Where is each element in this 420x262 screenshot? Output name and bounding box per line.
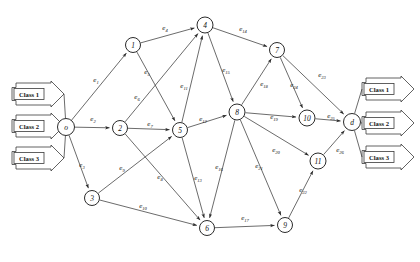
edge-e11 [182,36,203,123]
edge-e22 [289,171,313,218]
node-8[interactable]: 8 [229,104,245,120]
edge-label-e23: e23 [318,71,326,79]
input-class-arrow-3: Class 3 [12,145,64,171]
edge-label-e12: e12 [199,115,207,123]
edge-label-e9: e9 [119,164,125,172]
node-label-4: 4 [203,21,207,30]
edge-label-e17: e17 [241,214,249,222]
edge-label-e15: e15 [222,66,230,74]
edge-e18 [242,59,272,105]
input-connector-3 [64,136,65,158]
edge-label-e18: e18 [260,80,268,88]
node-label-2: 2 [118,124,122,133]
edge-label-e25: e25 [327,112,335,120]
output-class-arrow-1: Class 1 [362,76,414,102]
edge-e2 [75,127,110,128]
node-d[interactable]: d [344,114,361,131]
node-label-1: 1 [131,41,135,50]
output-class-arrow-2: Class 2 [362,110,414,136]
node-label-8: 8 [235,108,239,117]
node-label-10: 10 [303,114,311,123]
edge-label-e24: e24 [290,81,298,89]
output-class-arrow-2-label: Class 2 [369,120,390,127]
output-class-arrow-3-label: Class 3 [369,154,390,161]
edge-label-e4: e4 [162,24,168,32]
node-2[interactable]: 2 [113,121,128,136]
output-class-arrow-1-label: Class 1 [369,86,389,93]
node-7[interactable]: 7 [270,43,285,58]
edge-label-e1: e1 [93,76,98,84]
output-class-arrow-3: Class 3 [362,144,414,170]
input-class-arrow-1-label: Class 1 [19,91,39,98]
input-connector-1 [64,94,65,118]
edge-e1 [72,53,127,120]
edge-e5 [137,52,175,121]
edge-label-e8: e8 [157,173,163,181]
edge-label-e6: e6 [134,93,140,101]
node-label-5: 5 [178,126,182,135]
edge-e17 [215,225,275,227]
node-label-9: 9 [283,221,287,230]
output-connector-1 [355,89,362,113]
edge-e7 [128,128,170,129]
edge-e10 [100,200,197,225]
edges-layer [69,28,344,228]
node-11[interactable]: 11 [310,153,326,169]
node-6[interactable]: 6 [200,221,215,236]
edge-label-e5: e5 [144,68,150,76]
nodes-layer: o1234567891011d [58,17,361,236]
edge-label-e3: e3 [79,161,85,169]
edge-label-e7: e7 [147,120,153,128]
node-o[interactable]: o [58,119,75,136]
edge-label-e16: e16 [215,163,223,171]
input-class-arrow-3-label: Class 3 [19,155,40,162]
edge-e12 [188,115,227,127]
node-label-3: 3 [89,194,94,203]
input-class-arrow-2-label: Class 2 [19,123,40,130]
node-1[interactable]: 1 [126,38,141,53]
edge-label-e11: e11 [180,82,187,90]
node-9[interactable]: 9 [278,218,293,233]
edge-label-e20: e20 [272,146,280,154]
node-4[interactable]: 4 [197,17,213,33]
node-label-7: 7 [275,46,279,55]
edge-label-e22: e22 [299,186,307,194]
network-graph: Class 1Class 2Class 3Class 1Class 2Class… [0,0,420,262]
output-connector-3 [354,131,362,157]
node-label-d: d [350,118,354,127]
node-label-6: 6 [205,224,209,233]
edge-label-e14: e14 [239,25,247,33]
node-label-o: o [64,123,68,132]
input-class-arrow-2: Class 2 [12,113,64,139]
node-3[interactable]: 3 [85,191,100,206]
edge-label-e26: e26 [336,146,344,154]
node-5[interactable]: 5 [173,123,188,138]
edge-label-e13: e13 [194,174,202,182]
node-10[interactable]: 10 [299,110,315,126]
node-label-11: 11 [315,157,322,166]
diagram-canvas: Class 1Class 2Class 3Class 1Class 2Class… [0,0,420,262]
input-class-arrow-1: Class 1 [12,81,64,107]
edge-label-e19: e19 [270,113,278,121]
edge-label-e10: e10 [139,202,147,210]
edge-e15 [208,33,233,102]
edge-label-e2: e2 [90,115,96,123]
